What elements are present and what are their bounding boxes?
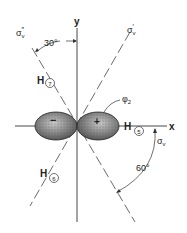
phi2-leader bbox=[104, 100, 120, 112]
angle-60-label: 60° bbox=[136, 163, 150, 173]
hydrogen-atom-6: H 6 bbox=[40, 168, 59, 183]
positive-sign: + bbox=[94, 116, 100, 127]
angle-60-arc bbox=[117, 129, 155, 192]
phi2-label: φ2 bbox=[122, 94, 132, 105]
x-axis-label: x bbox=[169, 121, 175, 132]
sigma-v-prime-label: σv′ bbox=[127, 23, 136, 36]
hydrogen-atom-5: H 5 bbox=[124, 121, 144, 136]
sigma-v-double-prime-label: σv″ bbox=[16, 26, 25, 39]
svg-text:H: H bbox=[124, 121, 131, 132]
negative-sign: − bbox=[50, 114, 56, 126]
svg-text:H: H bbox=[37, 75, 44, 86]
hydrogen-atom-7: H 7 bbox=[37, 75, 55, 88]
symmetry-diagram: − + φ2 y x σv″ σv′ σv 30° 60° H 7 H 5 H … bbox=[0, 0, 187, 233]
sigma-v-label: σv bbox=[157, 136, 166, 147]
y-axis-label: y bbox=[74, 16, 80, 27]
svg-text:H: H bbox=[40, 168, 47, 179]
angle-30-label: 30° bbox=[44, 38, 58, 48]
